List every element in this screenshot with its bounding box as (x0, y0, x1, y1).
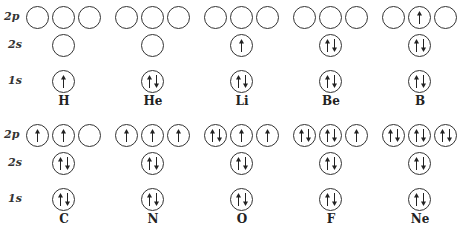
element-symbol: Be (311, 94, 351, 108)
orbital-2p (345, 6, 368, 29)
orbital-1s (141, 70, 164, 93)
spin-up-arrow-icon (236, 75, 241, 88)
spin-up-arrow-icon (325, 75, 330, 88)
orbital-1s (52, 70, 75, 93)
orbital-2p (204, 124, 227, 147)
orbital-1s (408, 70, 431, 93)
orbital-1s (408, 188, 431, 211)
orbital-2p (26, 124, 49, 147)
orbital-2p (345, 124, 368, 147)
spin-down-arrow-icon (154, 75, 159, 88)
orbital-2p (256, 6, 279, 29)
spin-up-arrow-icon (414, 129, 419, 142)
orbital-2p (167, 6, 190, 29)
orbital-2s (408, 152, 431, 175)
spin-up-arrow-icon (325, 157, 330, 170)
spin-up-arrow-icon (124, 129, 129, 142)
orbital-2p (141, 6, 164, 29)
spin-up-arrow-icon (299, 129, 304, 142)
spin-up-arrow-icon (61, 75, 66, 88)
spin-up-arrow-icon (147, 157, 152, 170)
spin-up-arrow-icon (236, 193, 241, 206)
orbital-2s (52, 152, 75, 175)
element-symbol: H (44, 94, 84, 108)
orbital-2s (141, 34, 164, 57)
spin-up-arrow-icon (414, 193, 419, 206)
element-symbol: C (44, 212, 84, 226)
orbital-2s (319, 34, 342, 57)
row-label-2s: 2s (8, 156, 22, 169)
spin-up-arrow-icon (147, 75, 152, 88)
orbital-2p (167, 124, 190, 147)
spin-down-arrow-icon (332, 157, 337, 170)
orbital-2p (256, 124, 279, 147)
orbital-2p (52, 124, 75, 147)
orbital-2p (230, 6, 253, 29)
spin-down-arrow-icon (65, 193, 70, 206)
spin-up-arrow-icon (414, 157, 419, 170)
row-label-2p: 2p (4, 128, 19, 141)
spin-up-arrow-icon (354, 129, 359, 142)
spin-down-arrow-icon (243, 193, 248, 206)
spin-down-arrow-icon (395, 129, 400, 142)
orbital-2p (141, 124, 164, 147)
spin-up-arrow-icon (210, 129, 215, 142)
element-symbol: He (133, 94, 173, 108)
orbital-2p (230, 124, 253, 147)
orbital-2p (115, 124, 138, 147)
spin-down-arrow-icon (421, 129, 426, 142)
orbital-2p (319, 6, 342, 29)
spin-up-arrow-icon (176, 129, 181, 142)
spin-up-arrow-icon (150, 129, 155, 142)
orbital-2p (52, 6, 75, 29)
spin-up-arrow-icon (417, 11, 422, 24)
spin-up-arrow-icon (325, 39, 330, 52)
orbital-2p (382, 6, 405, 29)
spin-down-arrow-icon (332, 75, 337, 88)
orbital-1s (230, 70, 253, 93)
element-symbol: O (222, 212, 262, 226)
spin-up-arrow-icon (239, 39, 244, 52)
spin-down-arrow-icon (421, 193, 426, 206)
orbital-2p (78, 124, 101, 147)
row-label-2p: 2p (4, 10, 19, 23)
element-symbol: N (133, 212, 173, 226)
spin-down-arrow-icon (421, 39, 426, 52)
orbital-2p (115, 6, 138, 29)
orbital-2s (230, 34, 253, 57)
spin-down-arrow-icon (217, 129, 222, 142)
spin-up-arrow-icon (414, 39, 419, 52)
spin-down-arrow-icon (421, 157, 426, 170)
spin-down-arrow-icon (243, 157, 248, 170)
orbital-2p (434, 6, 457, 29)
orbital-2p (434, 124, 457, 147)
spin-up-arrow-icon (440, 129, 445, 142)
spin-up-arrow-icon (236, 157, 241, 170)
spin-up-arrow-icon (61, 129, 66, 142)
spin-up-arrow-icon (414, 75, 419, 88)
orbital-2p (293, 6, 316, 29)
spin-down-arrow-icon (332, 193, 337, 206)
orbital-2p (319, 124, 342, 147)
spin-down-arrow-icon (332, 39, 337, 52)
spin-down-arrow-icon (306, 129, 311, 142)
spin-up-arrow-icon (58, 157, 63, 170)
orbital-1s (230, 188, 253, 211)
orbital-2p (78, 6, 101, 29)
spin-down-arrow-icon (65, 157, 70, 170)
element-symbol: B (400, 94, 440, 108)
spin-up-arrow-icon (325, 129, 330, 142)
spin-down-arrow-icon (332, 129, 337, 142)
spin-down-arrow-icon (154, 193, 159, 206)
row-label-1s: 1s (8, 192, 22, 205)
orbital-2s (141, 152, 164, 175)
orbital-1s (141, 188, 164, 211)
orbital-2s (230, 152, 253, 175)
orbital-2s (52, 34, 75, 57)
orbital-1s (319, 188, 342, 211)
spin-up-arrow-icon (325, 193, 330, 206)
orbital-2p (408, 6, 431, 29)
spin-up-arrow-icon (265, 129, 270, 142)
orbital-2p (26, 6, 49, 29)
row-label-1s: 1s (8, 74, 22, 87)
